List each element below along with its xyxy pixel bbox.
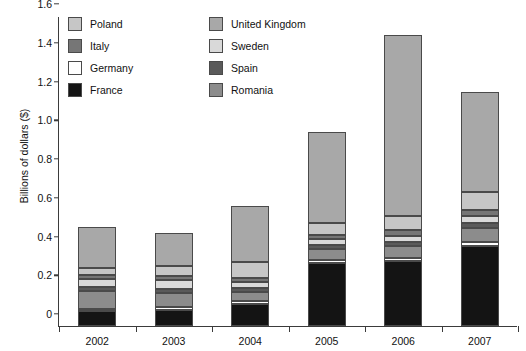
legend-item-spain[interactable]: Spain	[209, 57, 328, 79]
legend-item-germany[interactable]: Germany	[68, 57, 187, 79]
bar-2003[interactable]	[155, 233, 193, 326]
legend-label: Germany	[90, 62, 133, 74]
legend-swatch-icon	[68, 83, 82, 97]
bar-segment-romania[interactable]	[308, 249, 346, 260]
bar-segment-italy[interactable]	[384, 230, 422, 235]
x-axis-tick-mark	[289, 326, 290, 332]
y-axis-tick-label: 0.8	[37, 153, 59, 165]
legend-item-poland[interactable]: Poland	[68, 13, 187, 35]
legend-swatch-icon	[209, 17, 223, 31]
bar-segment-germany[interactable]	[78, 309, 116, 311]
bar-segment-germany[interactable]	[384, 258, 422, 261]
bar-segment-france[interactable]	[78, 311, 116, 326]
bar-2004[interactable]	[231, 206, 269, 326]
legend-swatch-icon	[68, 17, 82, 31]
bar-segment-sweden[interactable]	[78, 279, 116, 287]
legend-item-united-kingdom[interactable]: United Kingdom	[209, 13, 328, 35]
legend-item-romania[interactable]: Romania	[209, 79, 328, 101]
bar-segment-poland[interactable]	[155, 266, 193, 276]
bar-segment-france[interactable]	[155, 310, 193, 326]
x-axis-tick-mark	[136, 326, 137, 332]
bar-2002[interactable]	[78, 227, 116, 326]
bar-segment-sweden[interactable]	[461, 216, 499, 223]
bar-segment-poland[interactable]	[461, 192, 499, 210]
x-axis-label-2005: 2005	[315, 335, 338, 347]
bar-segment-spain[interactable]	[78, 287, 116, 291]
x-axis-tick-mark	[442, 326, 443, 332]
y-axis-title: Billions of dollars ($)	[18, 36, 30, 276]
bar-segment-romania[interactable]	[461, 228, 499, 243]
legend-swatch-icon	[68, 39, 82, 53]
legend-swatch-icon	[209, 83, 223, 97]
bar-segment-italy[interactable]	[155, 276, 193, 280]
y-axis-tick-label: 1.6	[37, 0, 59, 10]
chart-legend: PolandItalyGermanyFranceUnited KingdomSw…	[68, 13, 328, 101]
bar-segment-italy[interactable]	[308, 235, 346, 240]
legend-swatch-icon	[209, 39, 223, 53]
bar-segment-germany[interactable]	[155, 307, 193, 309]
legend-label: France	[90, 84, 123, 96]
bar-segment-sweden[interactable]	[155, 280, 193, 289]
bar-segment-united-kingdom[interactable]	[461, 92, 499, 193]
bar-segment-united-kingdom[interactable]	[231, 206, 269, 262]
y-axis-tick-label: 1.0	[37, 114, 59, 126]
bar-segment-poland[interactable]	[231, 262, 269, 278]
legend-label: United Kingdom	[231, 18, 306, 30]
x-axis-label-2004: 2004	[239, 335, 262, 347]
y-axis-tick-label: 0	[46, 308, 59, 320]
bar-segment-poland[interactable]	[78, 268, 116, 275]
legend-item-france[interactable]: France	[68, 79, 187, 101]
bar-segment-sweden[interactable]	[384, 236, 422, 242]
x-axis-tick-mark	[212, 326, 213, 332]
bar-segment-italy[interactable]	[461, 210, 499, 216]
bar-segment-poland[interactable]	[384, 216, 422, 231]
bar-2005[interactable]	[308, 132, 346, 326]
bar-segment-spain[interactable]	[155, 289, 193, 293]
y-axis-tick-label: 1.4	[37, 37, 59, 49]
bar-segment-sweden[interactable]	[231, 282, 269, 288]
bar-segment-italy[interactable]	[231, 278, 269, 282]
bar-segment-poland[interactable]	[308, 223, 346, 234]
legend-item-italy[interactable]: Italy	[68, 35, 187, 57]
bar-2007[interactable]	[461, 92, 499, 326]
bar-segment-united-kingdom[interactable]	[384, 35, 422, 215]
bar-segment-france[interactable]	[461, 246, 499, 326]
y-axis-tick-label: 0.6	[37, 192, 59, 204]
bar-segment-united-kingdom[interactable]	[308, 132, 346, 223]
legend-label: Poland	[90, 18, 123, 30]
bar-segment-italy[interactable]	[78, 275, 116, 279]
legend-swatch-icon	[68, 61, 82, 75]
legend-item-sweden[interactable]: Sweden	[209, 35, 328, 57]
bar-segment-spain[interactable]	[461, 223, 499, 228]
y-axis-tick-label: 0.4	[37, 231, 59, 243]
bar-segment-france[interactable]	[308, 263, 346, 326]
legend-swatch-icon	[209, 61, 223, 75]
stacked-bar-chart: Billions of dollars ($) 00.20.40.60.81.0…	[0, 0, 526, 351]
legend-label: Sweden	[231, 40, 269, 52]
bar-segment-germany[interactable]	[461, 242, 499, 245]
bar-segment-romania[interactable]	[78, 291, 116, 309]
bar-segment-spain[interactable]	[384, 242, 422, 246]
legend-label: Romania	[231, 84, 273, 96]
bar-segment-romania[interactable]	[155, 293, 193, 308]
x-axis-tick-mark	[365, 326, 366, 332]
x-axis-label-2006: 2006	[392, 335, 415, 347]
bar-segment-france[interactable]	[231, 304, 269, 326]
bar-segment-spain[interactable]	[231, 288, 269, 292]
bar-2006[interactable]	[384, 35, 422, 326]
bar-segment-romania[interactable]	[384, 246, 422, 258]
y-axis-tick-label: 0.2	[37, 269, 59, 281]
bar-segment-romania[interactable]	[231, 292, 269, 301]
x-axis-label-2002: 2002	[86, 335, 109, 347]
bar-segment-sweden[interactable]	[308, 239, 346, 245]
bar-segment-united-kingdom[interactable]	[78, 227, 116, 268]
y-axis-tick-label: 1.2	[37, 76, 59, 88]
bar-segment-france[interactable]	[384, 261, 422, 326]
legend-label: Italy	[90, 40, 109, 52]
bar-segment-germany[interactable]	[308, 260, 346, 263]
bar-segment-germany[interactable]	[231, 301, 269, 304]
bar-segment-united-kingdom[interactable]	[155, 233, 193, 266]
legend-label: Spain	[231, 62, 258, 74]
x-axis-label-2007: 2007	[468, 335, 491, 347]
bar-segment-spain[interactable]	[308, 245, 346, 249]
